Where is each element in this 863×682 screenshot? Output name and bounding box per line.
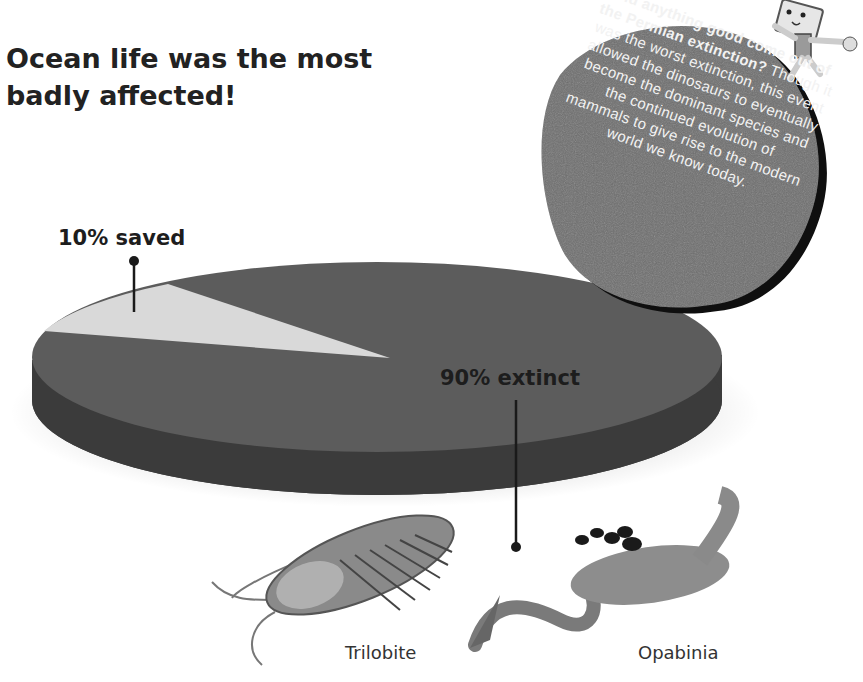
opabinia-caption: Opabinia <box>638 642 719 663</box>
opabinia-illustration <box>470 495 733 648</box>
saved-label: 10% saved <box>58 226 185 250</box>
page-title: Ocean life was the most badly affected! <box>6 40 426 114</box>
trilobite-caption: Trilobite <box>345 642 416 663</box>
extinct-pointer-dot <box>511 542 521 552</box>
trilobite-illustration <box>212 495 466 665</box>
extinct-label: 90% extinct <box>440 366 580 390</box>
